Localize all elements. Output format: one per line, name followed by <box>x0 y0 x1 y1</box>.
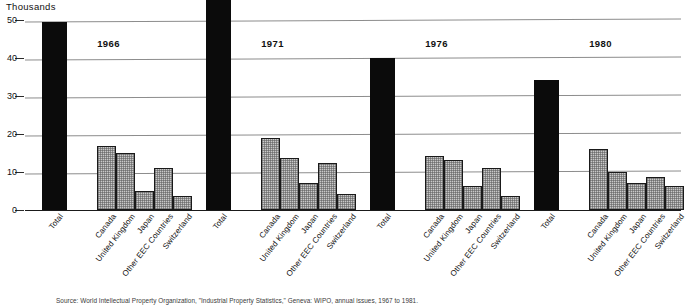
gridline-30 <box>25 95 681 99</box>
group-year-label: 1966 <box>97 38 120 49</box>
group-year-label: 1976 <box>425 38 448 49</box>
bar-country <box>463 186 482 210</box>
bar-country <box>135 191 154 210</box>
bar-country <box>280 158 299 210</box>
y-tick-label: 50 <box>4 15 17 25</box>
bar-country <box>589 149 608 210</box>
axis-baseline <box>25 210 681 211</box>
bar-country <box>299 183 318 210</box>
bar-country <box>261 138 280 210</box>
gridline-20 <box>25 133 681 137</box>
chart-source-footnote: Source: World Intellectual Property Orga… <box>56 297 418 304</box>
bar-total <box>370 58 395 210</box>
bar-country <box>665 186 684 210</box>
bar-country <box>627 183 646 210</box>
bar-total <box>206 0 231 210</box>
y-tick-label: 30 <box>4 91 17 101</box>
category-label-total: Total <box>47 212 65 231</box>
y-tick-label: 10 <box>4 167 17 177</box>
bar-country <box>116 153 135 210</box>
y-tick-label: 20 <box>4 129 17 139</box>
bar-country <box>425 156 444 210</box>
bar-country <box>501 196 520 210</box>
bar-total <box>42 22 67 210</box>
bar-total <box>534 80 559 210</box>
bar-country <box>97 146 116 210</box>
bar-country <box>318 163 337 210</box>
category-label-total: Total <box>211 212 229 231</box>
y-tick-label: 0 <box>4 205 17 215</box>
bar-country <box>173 196 192 210</box>
gridline-50 <box>25 19 681 23</box>
bar-country <box>444 160 463 210</box>
y-tick-label: 40 <box>4 53 17 63</box>
category-label-total: Total <box>539 212 557 231</box>
bar-country <box>154 168 173 210</box>
bar-country <box>608 172 627 210</box>
bar-country <box>646 177 665 210</box>
bar-country <box>482 168 501 210</box>
group-year-label: 1980 <box>589 38 612 49</box>
group-year-label: 1971 <box>261 38 284 49</box>
category-label-total: Total <box>375 212 393 231</box>
bar-country <box>337 194 356 210</box>
gridline-40 <box>25 57 681 61</box>
